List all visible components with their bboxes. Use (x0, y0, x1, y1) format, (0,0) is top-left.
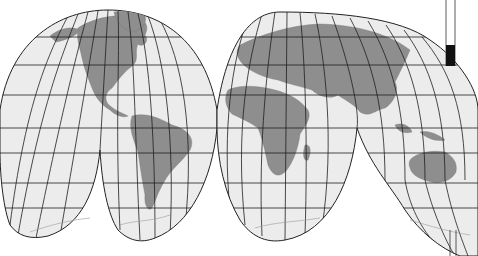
world-map (0, 0, 478, 256)
lobe-americas (0, 10, 217, 241)
lobe-eastern-hemisphere (217, 12, 478, 256)
